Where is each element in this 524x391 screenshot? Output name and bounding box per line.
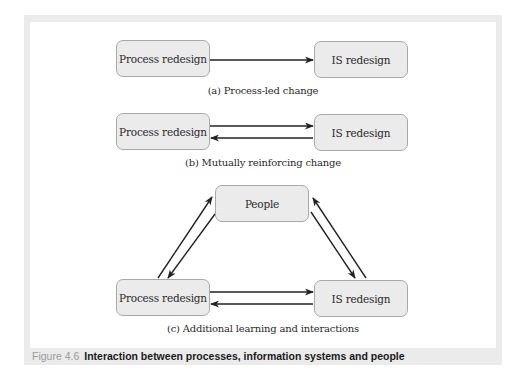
box-c-is-redesign: IS redesign	[314, 280, 408, 317]
box-a-is-redesign: IS redesign	[314, 41, 408, 78]
caption-b: (b) Mutually reinforcing change	[30, 157, 496, 168]
figure-number: Figure 4.6	[32, 350, 79, 362]
box-a-process-redesign: Process redesign	[116, 40, 210, 77]
box-b-is-redesign: IS redesign	[314, 114, 408, 151]
figure-title: Interaction between processes, informati…	[84, 350, 404, 362]
arrow-c-process-to-people	[158, 197, 212, 278]
box-c-process-redesign: Process redesign	[116, 279, 210, 316]
arrow-c-people-to-process	[168, 214, 215, 278]
box-b-process-redesign: Process redesign	[116, 113, 210, 150]
caption-c: (c) Additional learning and interactions	[30, 323, 496, 334]
arrow-c-people-to-is	[311, 212, 355, 278]
figure-caption: Figure 4.6Interaction between processes,…	[32, 350, 405, 362]
caption-a: (a) Process-led change	[30, 85, 496, 96]
box-c-people: People	[215, 185, 309, 222]
arrow-c-is-to-people	[313, 198, 366, 278]
